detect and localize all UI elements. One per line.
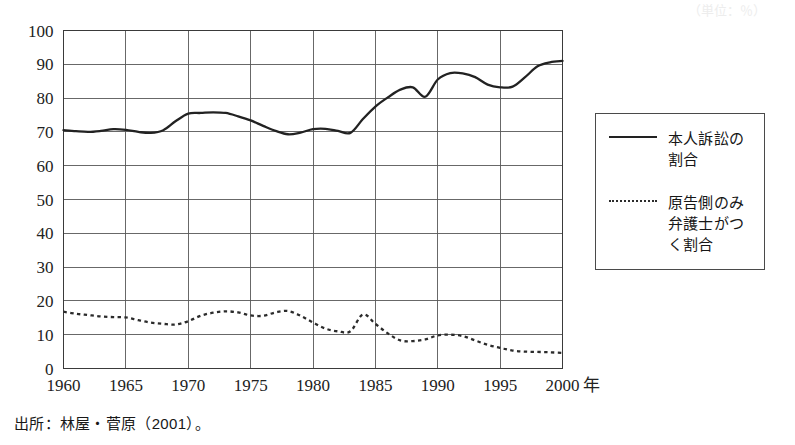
legend-item-honnin-soshou: 本人訴訟の 割合 <box>609 128 744 170</box>
y-axis-tick-label: 20 <box>37 292 54 311</box>
x-axis-tick-label: 2000 <box>546 376 580 395</box>
y-axis-tick-label: 60 <box>37 157 54 176</box>
x-axis-tick-label: 1970 <box>171 376 205 395</box>
y-axis-tick-label: 70 <box>37 123 54 142</box>
x-axis-tick-label: 1965 <box>109 376 143 395</box>
legend-item-genkokugawa-nomi: 原告側のみ 弁護士がつ く割合 <box>609 192 744 255</box>
x-axis-tick-label: 1985 <box>358 376 392 395</box>
y-axis-tick-label: 50 <box>37 191 54 210</box>
legend-swatch-dotted-line-icon <box>609 192 657 210</box>
source-note: 出所：林屋・菅原（2001）。 <box>14 412 210 433</box>
x-axis-tick-label: 1960 <box>47 376 81 395</box>
x-axis-unit-label: 年 <box>583 376 600 395</box>
legend: 本人訴訟の 割合 原告側のみ 弁護士がつ く割合 <box>595 113 765 270</box>
y-axis-tick-label: 100 <box>28 22 54 41</box>
y-axis-tick-label: 40 <box>37 224 54 243</box>
legend-item-label: 本人訴訟の 割合 <box>668 128 744 170</box>
x-axis-tick-label: 1995 <box>483 376 517 395</box>
x-axis-tick-label: 1990 <box>421 376 455 395</box>
x-axis-tick-label: 1975 <box>234 376 268 395</box>
x-axis-tick-labels: 196019651970197519801985199019952000 <box>47 376 580 395</box>
y-axis-tick-labels: 0102030405060708090100 <box>28 22 54 379</box>
y-axis-tick-label: 10 <box>37 326 54 345</box>
y-axis-tick-label: 90 <box>37 55 54 74</box>
figure-root: （単位：％） 0102030405060708090100 1960196519… <box>0 0 795 445</box>
y-axis-tick-label: 80 <box>37 89 54 108</box>
y-axis-tick-label: 30 <box>37 258 54 277</box>
legend-item-label: 原告側のみ 弁護士がつ く割合 <box>668 192 744 255</box>
x-axis-tick-label: 1980 <box>296 376 330 395</box>
legend-swatch-solid-line-icon <box>609 128 657 146</box>
